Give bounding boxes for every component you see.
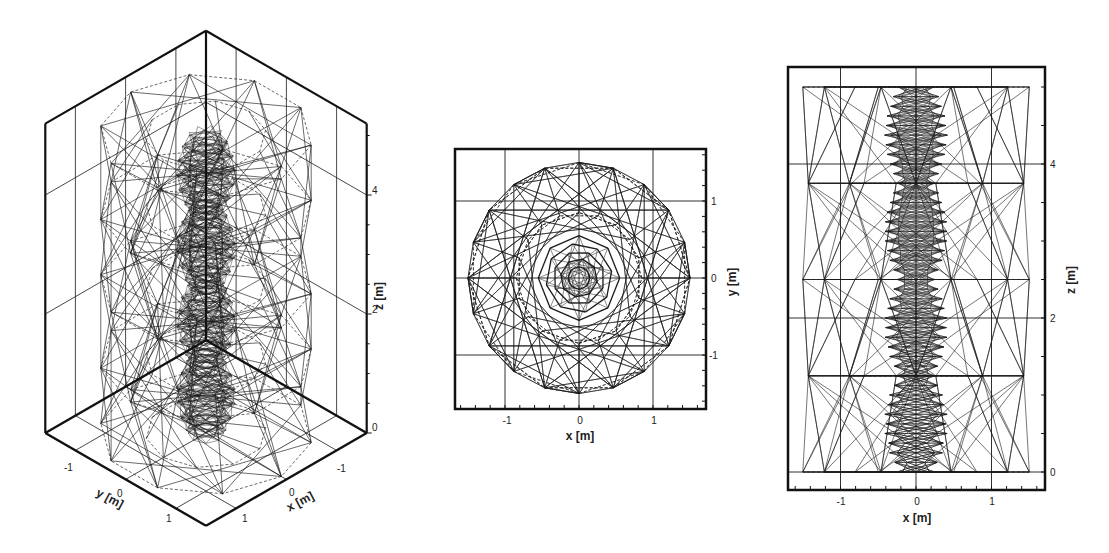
iso-z-axis-label: z [m] [372, 282, 386, 310]
side-x-tick-0: 0 [914, 496, 920, 507]
top-grid [455, 149, 706, 409]
top-view-plot: -1 0 1 x [m] 1 0 -1 y [m] [455, 149, 739, 443]
iso-y-tick-neg1: -1 [64, 462, 73, 473]
side-z-axis-label: z [m] [1064, 266, 1078, 294]
top-x-tick-1: 1 [651, 415, 657, 426]
iso-x-tick-neg1: -1 [337, 463, 346, 474]
side-z-tick-0: 0 [1050, 467, 1056, 478]
top-minor-ticks [461, 155, 706, 409]
top-y-tick-1: 1 [711, 196, 717, 207]
figure-canvas: 0 2 4 z [m] -1 0 1 y [m] -1 0 1 x [m] -1… [0, 0, 1109, 553]
side-x-axis-label: x [m] [903, 511, 932, 525]
top-x-axis-label: x [m] [566, 429, 595, 443]
isometric-plot: 0 2 4 z [m] -1 0 1 y [m] -1 0 1 x [m] [45, 31, 386, 526]
side-view-plot: -1 0 1 x [m] 4 2 0 z [m] [788, 67, 1078, 525]
top-y-axis-label: y [m] [725, 268, 739, 297]
iso-x-tick-1: 1 [242, 513, 248, 524]
side-z-tick-4: 4 [1050, 159, 1056, 170]
iso-y-tick-1: 1 [166, 513, 172, 524]
side-x-tick-1: 1 [989, 496, 995, 507]
top-y-tick-0: 0 [711, 273, 717, 284]
iso-z-tick-4: 4 [372, 185, 378, 196]
top-y-tick-neg1: -1 [709, 350, 718, 361]
top-frame [455, 149, 706, 409]
side-x-tick-neg1: -1 [837, 496, 846, 507]
side-z-tick-2: 2 [1050, 313, 1056, 324]
top-x-tick-0: 0 [577, 415, 583, 426]
iso-z-tick-0: 0 [372, 422, 378, 433]
side-wireframe [803, 87, 1030, 472]
top-x-tick-neg1: -1 [503, 415, 512, 426]
